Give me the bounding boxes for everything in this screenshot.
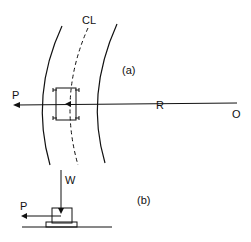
radius-line <box>16 103 237 105</box>
label-r: R <box>156 99 164 111</box>
label-w: W <box>65 174 76 186</box>
side-elevation-view: W (b) P <box>20 170 150 227</box>
label-p-a: P <box>12 89 19 101</box>
centerline-curve <box>70 28 88 165</box>
label-part-a: (a) <box>122 64 135 76</box>
inner-rail-curve <box>97 24 117 163</box>
center-mass-marker-icon <box>65 101 71 107</box>
arrow-p-b-icon <box>21 213 27 219</box>
track-plan-view: CL (a) P R O <box>12 14 241 165</box>
label-o: O <box>232 108 241 120</box>
diagram-canvas: CL (a) P R O W (b) P <box>0 0 251 242</box>
arrow-w-icon <box>58 208 64 214</box>
label-centerline: CL <box>82 14 96 26</box>
label-p-b: P <box>20 200 27 212</box>
label-part-b: (b) <box>137 194 150 206</box>
arrow-p-a-icon <box>13 102 20 108</box>
outer-rail-curve <box>42 26 62 165</box>
